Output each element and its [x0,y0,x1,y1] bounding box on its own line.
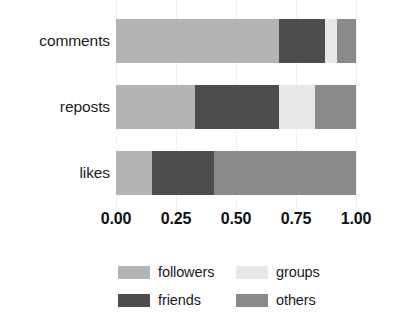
bar-segment-reposts-others [315,85,356,129]
category-label-reposts: reposts [60,98,110,116]
stacked-bar-chart: commentsrepostslikes 0.000.250.500.751.0… [0,0,400,332]
bar-segment-comments-followers [116,19,279,63]
legend-label-groups: groups [276,264,320,280]
legend-swatch-groups [236,266,268,279]
stacked-bar-reposts [116,85,356,129]
bar-segment-likes-friends [152,151,214,195]
bar-row-reposts: reposts [0,74,400,140]
x-axis: 0.000.250.500.751.00 [116,210,356,236]
bar-segment-reposts-groups [279,85,315,129]
category-label-comments: comments [39,32,110,50]
legend-label-friends: friends [158,292,201,308]
bar-row-likes: likes [0,140,400,206]
bar-segment-likes-others [214,151,356,195]
x-tick-label-0.25: 0.25 [161,210,191,228]
x-tick-label-0.50: 0.50 [221,210,251,228]
legend-label-followers: followers [158,264,214,280]
chart-legend: followersgroupsfriendsothers [118,258,368,314]
legend-label-others: others [276,292,316,308]
bar-segment-comments-others [337,19,356,63]
legend-item-friends[interactable]: friends [118,292,236,308]
stacked-bar-likes [116,151,356,195]
x-tick-label-0.00: 0.00 [101,210,131,228]
plot-area: commentsrepostslikes [0,0,400,212]
bar-segment-likes-followers [116,151,152,195]
legend-item-others[interactable]: others [236,292,354,308]
bar-row-comments: comments [0,8,400,74]
bar-segment-reposts-followers [116,85,195,129]
legend-swatch-followers [118,266,150,279]
bar-segment-comments-groups [325,19,337,63]
bar-segment-comments-friends [279,19,325,63]
x-tick-label-0.75: 0.75 [281,210,311,228]
legend-swatch-friends [118,294,150,307]
x-tick-label-1.00: 1.00 [341,210,371,228]
legend-swatch-others [236,294,268,307]
category-label-likes: likes [79,164,110,182]
bar-segment-reposts-friends [195,85,279,129]
legend-item-followers[interactable]: followers [118,264,236,280]
legend-item-groups[interactable]: groups [236,264,354,280]
stacked-bar-comments [116,19,356,63]
